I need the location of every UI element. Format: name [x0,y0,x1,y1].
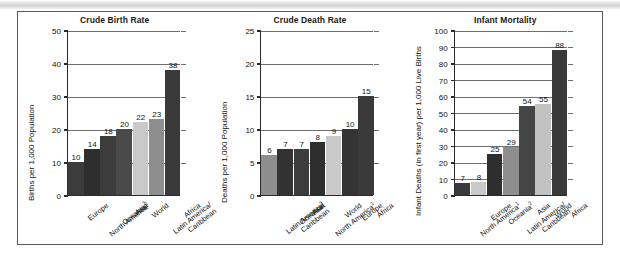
y-axis-tick-label: 10 [34,159,61,168]
right-tick [568,31,573,32]
y-axis-tick-label: 60 [421,93,448,102]
bar[interactable] [261,155,277,195]
y-axis-tick [451,146,455,147]
bar-value-label: 29 [507,138,516,147]
chart-panel-3: Infant MortalityInfant Deaths (in first … [408,11,603,245]
gridline [455,31,567,32]
right-tick [568,47,573,48]
y-axis-tick-label: 30 [34,93,61,102]
y-axis-tick [451,96,455,97]
y-axis-tick [451,63,455,64]
y-axis-tick-label: 40 [421,126,448,135]
bar[interactable] [471,182,487,195]
y-axis-tick [257,96,261,97]
y-axis-tick [451,129,455,130]
right-tick [568,163,573,164]
y-axis-tick-label: 20 [227,60,254,69]
bar[interactable] [503,147,519,195]
right-tick [568,179,573,180]
y-axis-tick-label: 90 [421,43,448,52]
bar[interactable] [552,50,568,195]
right-tick [568,113,573,114]
y-axis-title: Deaths per 1,000 Population [220,102,229,203]
y-axis-tick [64,30,68,31]
y-axis-title: Births per 1,000 Population [27,104,36,201]
chart-panel-2: Crude Death RateDeaths per 1,000 Populat… [212,11,407,245]
y-axis-tick-label: 10 [227,126,254,135]
y-axis-tick [257,129,261,130]
bar-value-label: 88 [555,41,564,50]
gridline [261,31,373,32]
bar[interactable] [519,106,535,195]
y-axis-tick-label: 25 [227,27,254,36]
y-axis-tick-label: 50 [34,27,61,36]
plot-area: 01020304050607080901007North America18Eu… [454,31,567,196]
y-axis-tick [451,179,455,180]
bar[interactable] [100,136,116,195]
bar-value-label: 23 [152,110,161,119]
y-axis-tick-label: 80 [421,60,448,69]
bar-value-label: 10 [346,120,355,129]
y-axis-tick [451,113,455,114]
bar-value-label: 10 [72,153,81,162]
right-tick [568,80,573,81]
bar-value-label: 15 [362,87,371,96]
bar-value-label: 6 [267,146,271,155]
bar[interactable] [277,149,293,195]
bar-value-label: 9 [332,127,336,136]
bar[interactable] [358,96,374,195]
bar-value-label: 54 [523,97,532,106]
right-tick [568,97,573,98]
bar-value-label: 22 [136,113,145,122]
y-axis-tick [64,129,68,130]
y-axis-tick-label: 0 [227,192,254,201]
bar[interactable] [342,129,358,195]
right-tick [374,97,379,98]
bar-value-label: 18 [104,127,113,136]
y-axis-tick [451,30,455,31]
bar[interactable] [535,104,551,195]
bar[interactable] [165,70,181,195]
bar[interactable] [84,149,100,195]
figure-root: Crude Birth RateBirths per 1,000 Populat… [0,0,620,260]
chart-title: Crude Death Rate [212,15,407,25]
gridline [68,97,180,98]
y-axis-tick-label: 5 [227,159,254,168]
right-tick [374,163,379,164]
bar-value-label: 38 [168,61,177,70]
right-tick [181,163,186,164]
bar[interactable] [294,149,310,195]
right-tick [568,130,573,131]
bar-value-label: 55 [539,95,548,104]
right-tick [374,31,379,32]
y-axis-tick-label: 0 [421,192,448,201]
bar[interactable] [133,122,149,195]
right-tick [374,64,379,65]
right-tick [181,97,186,98]
right-tick [181,31,186,32]
plot-area: 05101520256Latin America/Caribbean7Ocean… [260,31,373,196]
right-tick [181,64,186,65]
y-axis-tick [451,80,455,81]
gridline [455,64,567,65]
right-tick [568,146,573,147]
bar[interactable] [116,129,132,195]
bar[interactable] [455,183,471,195]
bar[interactable] [326,136,342,195]
bar[interactable] [487,154,503,195]
bar-value-label: 7 [299,140,303,149]
right-tick [374,130,379,131]
bar[interactable] [310,142,326,195]
y-axis-tick-label: 30 [421,142,448,151]
bar-value-label: 7 [460,174,464,183]
right-tick [568,64,573,65]
bar[interactable] [149,119,165,195]
bar-value-label: 8 [477,173,481,182]
gridline [68,31,180,32]
y-axis-tick [64,195,68,196]
bar[interactable] [68,162,84,195]
y-axis-tick-label: 15 [227,93,254,102]
bar-value-label: 7 [283,140,287,149]
y-axis-tick [451,47,455,48]
x-axis-category-label: World [150,201,170,220]
